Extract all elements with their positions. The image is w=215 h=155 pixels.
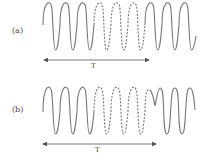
wave-b-dashed: [94, 87, 150, 134]
panel-a-label: (a): [12, 26, 23, 35]
panel-b-wave: [43, 87, 195, 134]
wave-a-solid-start: [43, 3, 94, 50]
period-label-b: T: [95, 146, 100, 154]
period-label-a: T: [91, 62, 96, 70]
waveform-diagram: [0, 0, 215, 155]
wave-a-dashed: [94, 3, 145, 50]
wave-b-solid-end: [150, 88, 195, 134]
panel-b-label: (b): [12, 105, 23, 114]
wave-a-solid-end: [145, 3, 196, 50]
panel-a-wave: [43, 3, 196, 50]
wave-b-solid-start: [43, 87, 94, 134]
